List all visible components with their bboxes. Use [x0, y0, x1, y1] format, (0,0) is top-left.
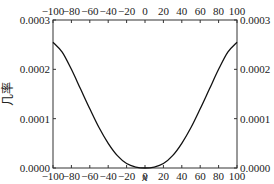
svg-text:0.0001: 0.0001: [20, 113, 50, 125]
probability-curve: [53, 42, 237, 168]
svg-text:40: 40: [176, 5, 188, 17]
svg-text:0.0003: 0.0003: [20, 14, 51, 26]
svg-text:80: 80: [213, 5, 225, 17]
svg-text:60: 60: [195, 5, 207, 17]
svg-text:−40: −40: [100, 5, 118, 17]
svg-text:0.0003: 0.0003: [240, 14, 271, 26]
svg-text:20: 20: [158, 170, 170, 182]
svg-text:20: 20: [158, 5, 170, 17]
svg-text:0.0002: 0.0002: [240, 63, 270, 75]
svg-text:0.0002: 0.0002: [20, 63, 50, 75]
svg-text:−80: −80: [63, 5, 81, 17]
axis-ticks: [53, 20, 237, 168]
tick-labels: −100−100−80−80−60−60−40−40−20−2000202040…: [20, 5, 271, 182]
svg-text:40: 40: [176, 170, 188, 182]
svg-text:0.0000: 0.0000: [20, 162, 51, 174]
svg-text:−20: −20: [118, 5, 136, 17]
svg-text:−20: −20: [118, 170, 136, 182]
svg-text:80: 80: [213, 170, 225, 182]
plot-frame: [53, 20, 237, 168]
svg-text:−60: −60: [81, 170, 99, 182]
svg-text:−60: −60: [81, 5, 99, 17]
svg-text:0.0000: 0.0000: [240, 162, 271, 174]
svg-text:60: 60: [195, 170, 207, 182]
svg-text:0: 0: [142, 5, 148, 17]
svg-text:0.0001: 0.0001: [240, 113, 270, 125]
svg-text:−80: −80: [63, 170, 81, 182]
svg-text:−40: −40: [100, 170, 118, 182]
x-axis-title: x: [141, 170, 148, 184]
probability-chart: −100−100−80−80−60−60−40−40−20−2000202040…: [0, 0, 274, 184]
y-axis-title: 几率: [0, 82, 15, 106]
